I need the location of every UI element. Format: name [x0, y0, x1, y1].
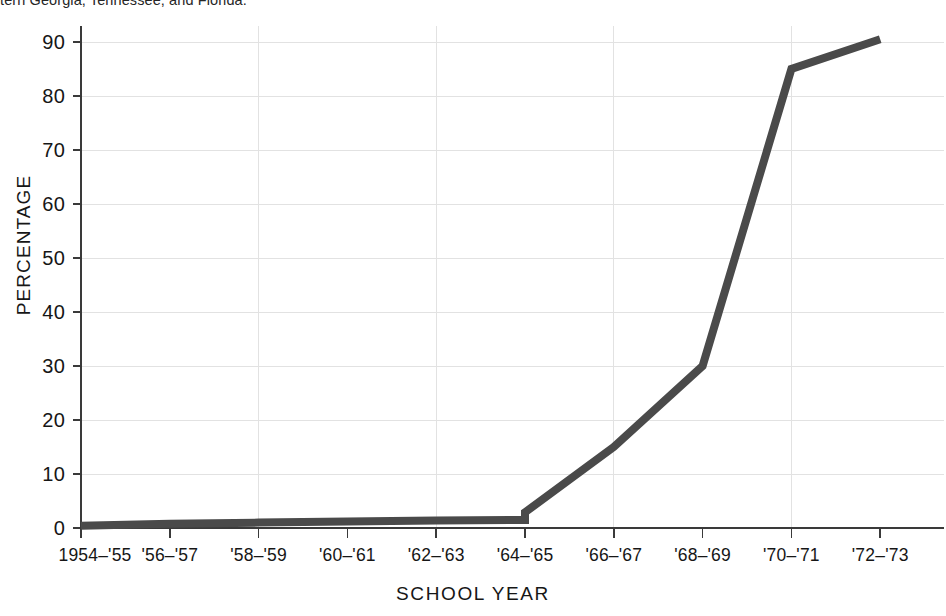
axis-lines — [81, 26, 944, 528]
plot-area: 0102030405060708090 1954–'55'56–'57'58–'… — [0, 0, 946, 560]
y-axis-tick-label: 30 — [8, 356, 65, 376]
y-axis-tick-label: 20 — [8, 410, 65, 430]
y-axis-title-text: PERCENTAGE — [11, 135, 37, 355]
y-axis-tick-label: 80 — [8, 86, 65, 106]
chart-canvas — [0, 0, 946, 560]
series-percentage-line — [81, 39, 880, 526]
y-axis-tick-label: 0 — [8, 518, 65, 538]
y-axis-tick-label: 10 — [8, 464, 65, 484]
vertical-gridlines — [259, 26, 792, 528]
chart-figure: tern Georgia, Tennessee, and Florida. 01… — [0, 0, 946, 616]
x-axis-title-text: SCHOOL YEAR — [0, 583, 946, 605]
x-axis-ticks — [81, 528, 880, 538]
y-axis-ticks — [73, 42, 81, 528]
data-series-line — [81, 39, 880, 526]
y-axis-tick-label: 90 — [8, 32, 65, 52]
horizontal-gridlines — [81, 42, 944, 474]
y-axis-title: PERCENTAGE — [11, 135, 37, 355]
x-axis-tick-label: '72–'73 — [825, 545, 935, 565]
